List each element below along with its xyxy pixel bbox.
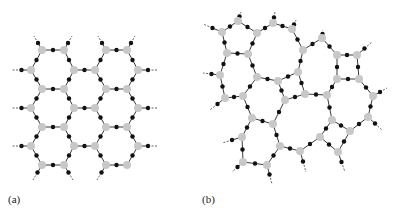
panel-b-label: (b)	[202, 193, 215, 205]
network-atom	[269, 19, 277, 27]
bridge-atom	[362, 46, 366, 50]
bridge-atom	[250, 41, 254, 45]
bridge-atom	[286, 74, 290, 78]
bridge-atom	[245, 125, 249, 129]
bridge-atom	[308, 142, 312, 146]
network-atom	[91, 104, 99, 112]
network-atom	[70, 142, 78, 150]
network-atom	[123, 85, 131, 93]
network-atom	[27, 66, 35, 74]
bridge-atom	[98, 115, 102, 119]
bridge-atom	[314, 92, 318, 96]
bridge-atom	[364, 85, 368, 89]
bridge-atom	[19, 144, 23, 148]
bridge-atom	[324, 126, 328, 130]
bridge-atom	[373, 121, 377, 125]
bridge-atom	[267, 172, 271, 176]
bridge-atom	[220, 84, 224, 88]
bridge-atom	[19, 68, 23, 72]
bridge-atom	[114, 163, 118, 167]
network-atom	[221, 94, 229, 102]
network-atom	[334, 148, 342, 156]
bridge-atom	[82, 68, 86, 72]
network-diagram-canvas	[0, 0, 402, 219]
network-atom	[91, 142, 99, 150]
network-atom	[234, 17, 242, 25]
network-atom	[216, 71, 224, 79]
bridge-atom	[263, 26, 267, 30]
bridge-atom	[215, 102, 219, 106]
network-atom	[91, 66, 99, 74]
bridge-atom	[100, 41, 104, 45]
network-atom	[323, 91, 331, 99]
network-atom	[369, 92, 377, 100]
bridge-atom	[288, 146, 292, 150]
bridge-atom	[293, 95, 297, 99]
network-atom	[239, 158, 247, 166]
network-atom	[223, 49, 231, 57]
bridge-atom	[130, 58, 134, 62]
bridge-atom	[345, 53, 349, 57]
bridge-atom	[114, 125, 118, 129]
bridge-atom	[130, 134, 134, 138]
network-atom	[301, 90, 309, 98]
network-atom	[27, 142, 35, 150]
bridge-atom	[250, 63, 254, 67]
network-atom	[333, 75, 341, 83]
bridge-atom	[209, 72, 213, 76]
bridge-atom	[34, 58, 38, 62]
network-atom	[60, 46, 68, 54]
bridge-atom	[235, 165, 239, 169]
bridge-atom	[98, 96, 102, 100]
network-atom	[333, 51, 341, 59]
bridge-atom	[357, 122, 361, 126]
network-atom	[364, 113, 372, 121]
bridge-atom	[221, 62, 225, 66]
bridge-atom	[19, 106, 23, 110]
bridge-atom	[339, 123, 343, 127]
bridge-atom	[253, 161, 257, 165]
bridge-atom	[99, 170, 103, 174]
bridge-atom	[67, 77, 71, 81]
network-atom	[318, 34, 326, 42]
network-atom	[123, 161, 131, 169]
network-atom	[346, 127, 354, 135]
network-atom	[60, 123, 68, 131]
bridge-atom	[51, 87, 55, 91]
network-atom	[134, 104, 142, 112]
network-atom	[102, 123, 110, 131]
network-atom	[123, 46, 131, 54]
network-atom	[134, 66, 142, 74]
bridge-atom	[295, 37, 299, 41]
bridge-atom	[339, 160, 343, 164]
network-atom	[70, 104, 78, 112]
bridge-atom	[130, 153, 134, 157]
bridge-atom	[34, 77, 38, 81]
network-atom	[253, 29, 261, 37]
bridge-atom	[277, 110, 281, 114]
bridge-atom	[51, 163, 55, 167]
bridge-atom	[222, 40, 226, 44]
bridge-atom	[51, 48, 55, 52]
bridge-atom	[327, 142, 331, 146]
bridge-atom	[228, 24, 232, 28]
bridge-atom	[67, 153, 71, 157]
bridge-atom	[245, 105, 249, 109]
bridge-atom	[82, 144, 86, 148]
network-atom	[269, 120, 277, 128]
network-atom	[294, 68, 302, 76]
bridge-atom	[335, 65, 339, 69]
network-atom	[276, 142, 284, 150]
bridge-atom	[67, 115, 71, 119]
network-atom	[288, 25, 296, 33]
bridge-atom	[330, 85, 334, 89]
bridge-atom	[346, 77, 350, 81]
bridge-atom	[310, 42, 314, 46]
bridge-atom	[146, 68, 150, 72]
network-atom	[316, 133, 324, 141]
bridge-atom	[35, 170, 39, 174]
bridge-atom	[130, 77, 134, 81]
bridge-atom	[34, 115, 38, 119]
network-structure-figure: (a) (b)	[0, 0, 402, 219]
bridge-atom	[260, 119, 264, 123]
